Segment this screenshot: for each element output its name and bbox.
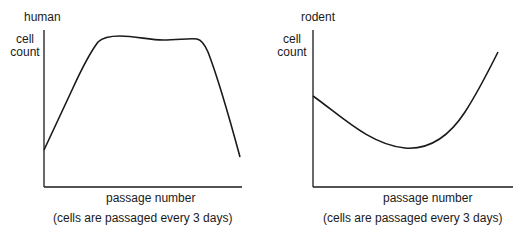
charts-canvas (0, 0, 523, 238)
rodent-axes (313, 30, 513, 187)
human-axes (44, 30, 242, 187)
rodent-curve (313, 52, 498, 148)
human-curve (44, 36, 240, 157)
